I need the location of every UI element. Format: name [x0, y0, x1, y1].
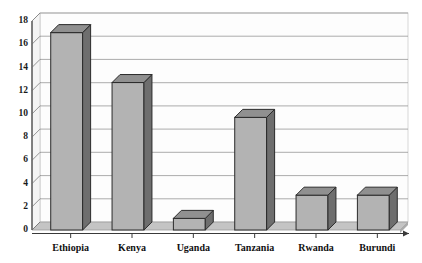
- y-tick-label-16: 16: [19, 38, 29, 48]
- back-wall: [40, 13, 408, 222]
- bar-front-face-1: [112, 83, 144, 230]
- bar-side-face-1: [144, 75, 152, 230]
- bar-front-face-2: [173, 218, 205, 230]
- x-axis-arrow: [403, 231, 409, 237]
- category-label-burundi: Burundi: [359, 242, 395, 253]
- category-label-rwanda: Rwanda: [298, 242, 334, 253]
- x-axis: [32, 231, 409, 238]
- y-tick-label-18: 18: [19, 15, 29, 25]
- bar-rwanda: [296, 187, 336, 230]
- y-tick-label-14: 14: [19, 62, 29, 72]
- bar-ethiopia: [51, 25, 91, 230]
- chart-canvas: 0 2 4 6 8 10 12 14 16 18 EthiopiaKenyaUg…: [0, 0, 422, 263]
- bar-front-face-3: [235, 117, 267, 230]
- y-tick-label-6: 6: [23, 154, 28, 164]
- bar-uganda: [173, 210, 213, 230]
- bar-chart-figure: 0 2 4 6 8 10 12 14 16 18 EthiopiaKenyaUg…: [0, 0, 422, 263]
- category-label-tanzania: Tanzania: [235, 242, 274, 253]
- y-axis-tick-labels: 0 2 4 6 8 10 12 14 16 18: [19, 15, 29, 234]
- y-tick-label-8: 8: [23, 131, 28, 141]
- y-tick-label-10: 10: [19, 108, 29, 118]
- bar-front-face-5: [357, 195, 389, 230]
- bar-side-face-0: [83, 25, 91, 230]
- category-label-uganda: Uganda: [177, 242, 210, 253]
- bar-burundi: [357, 187, 397, 230]
- category-label-ethiopia: Ethiopia: [52, 242, 89, 253]
- bar-front-face-0: [51, 33, 83, 230]
- category-label-kenya: Kenya: [118, 242, 146, 253]
- bar-tanzania: [235, 109, 275, 230]
- y-tick-label-0: 0: [23, 224, 28, 234]
- bar-side-face-3: [267, 109, 275, 230]
- y-tick-label-2: 2: [23, 201, 28, 211]
- x-axis-category-labels: EthiopiaKenyaUgandaTanzaniaRwandaBurundi: [52, 242, 395, 253]
- bar-kenya: [112, 75, 152, 230]
- y-tick-label-4: 4: [23, 178, 28, 188]
- x-axis-ticks: [71, 234, 378, 239]
- bar-front-face-4: [296, 195, 328, 230]
- left-side-wall: [32, 13, 40, 230]
- y-tick-label-12: 12: [19, 85, 29, 95]
